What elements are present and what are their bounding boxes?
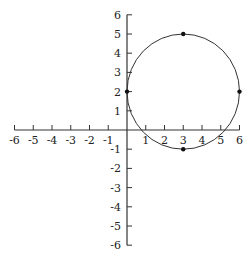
y-tick-label: 4 [114,47,121,60]
x-tick-label: 5 [217,134,224,147]
x-tick-label: -2 [84,134,95,147]
x-tick-label: -4 [47,134,58,147]
x-tick-label: -3 [65,134,76,147]
x-tick-label: -6 [9,134,20,147]
axes [15,15,240,245]
data-point [181,147,185,151]
y-tick-label: -5 [110,220,121,233]
x-tick-label: 1 [142,134,149,147]
y-tick-label: -2 [110,162,121,175]
y-tick-label: -4 [110,201,121,214]
x-tick-label: 3 [180,134,187,147]
y-tick-label: -1 [110,143,121,156]
data-point [237,89,241,93]
x-tick-label: -5 [28,134,39,147]
x-tick-label: 6 [236,134,243,147]
y-tick-label: 5 [114,28,121,41]
y-tick-label: 1 [114,105,121,118]
y-tick-label: 6 [114,9,121,22]
circle-shape [127,34,240,149]
y-tick-label: -6 [110,239,121,252]
data-point [125,89,129,93]
y-tick-label: -3 [110,182,121,195]
circle-outline [127,34,240,149]
data-point [181,32,185,36]
y-tick-label: 3 [114,66,121,79]
y-tick-label: 2 [114,86,121,99]
coordinate-plane-chart: -6-5-4-3-2-1123456 654321-1-2-3-4-5-6 [0,0,249,263]
